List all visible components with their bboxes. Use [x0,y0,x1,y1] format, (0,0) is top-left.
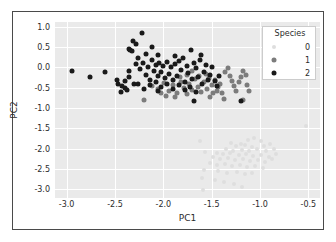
scatter-point [243,72,248,77]
gridline-vertical [212,22,213,198]
scatter-point [174,73,179,78]
figure-canvas: -3.0-2.5-2.0-1.5-1.0-0.5 1.00.50.0-0.5-1… [0,0,336,242]
y-tick-label: -2.0 [34,144,50,153]
scatter-point [143,52,148,57]
legend-entry-label: 2 [305,68,310,77]
scatter-point [199,53,204,58]
scatter-point [127,75,132,80]
scatter-point [202,168,206,172]
gridline-vertical [67,22,68,198]
scatter-point [188,84,193,89]
scatter-point [229,78,234,83]
scatter-point [233,158,237,162]
scatter-point [145,64,150,69]
scatter-point [209,64,214,69]
scatter-point [163,75,168,80]
scatter-point [170,77,175,82]
scatter-point [229,141,233,145]
scatter-point [192,99,197,104]
scatter-point [245,165,249,169]
scatter-point [201,188,205,192]
scatter-point [222,180,226,184]
scatter-point [250,171,254,175]
scatter-point [246,138,250,142]
legend-entry[interactable]: 2 [263,66,317,79]
y-tick-label: -2.5 [34,164,50,173]
scatter-point [182,88,187,93]
gridline-horizontal [55,108,320,109]
scatter-point [198,139,202,143]
scatter-point [156,88,161,93]
scatter-point [234,144,238,148]
scatter-point [228,73,233,78]
scatter-point [136,82,141,87]
scatter-point [247,88,252,93]
scatter-point [201,70,206,75]
gridline-horizontal [55,189,320,190]
scatter-point [226,66,231,71]
scatter-point [213,178,217,182]
scatter-point [203,62,208,67]
scatter-point [240,185,244,189]
scatter-point [178,67,183,72]
y-tick-label: 0.0 [37,63,50,72]
gridline-vertical [163,22,164,198]
scatter-point [200,176,204,180]
y-tick-label: -0.5 [34,83,50,92]
scatter-point [241,157,245,161]
scatter-point [264,149,268,153]
scatter-point [243,172,247,176]
scatter-point [248,159,252,163]
y-tick-label: -3.0 [34,185,50,194]
scatter-point [233,88,238,93]
scatter-point [211,155,215,159]
gridline-vertical [260,22,261,198]
x-axis-label: PC1 [55,213,320,223]
scatter-point [127,69,132,74]
scatter-point [204,86,209,91]
scatter-point [236,80,241,85]
scatter-point [182,80,187,85]
scatter-point [184,63,189,68]
scatter-point [155,74,160,79]
legend-entry[interactable]: 0 [263,40,317,53]
x-tick-label: -2.5 [107,200,123,209]
scatter-point [138,67,143,72]
scatter-point [244,152,248,156]
scatter-point [167,71,172,76]
scatter-point [238,163,242,167]
legend-marker-icon [272,45,276,49]
scatter-point [256,158,260,162]
scatter-point [251,154,255,158]
scatter-point [114,77,119,82]
scatter-point [217,73,222,78]
scatter-point [259,153,263,157]
scatter-point [172,95,177,100]
scatter-point [235,170,239,174]
y-tick-label: 1.0 [37,22,50,31]
scatter-point [198,58,203,63]
legend-entry-label: 0 [305,42,310,51]
scatter-point [189,48,194,53]
scatter-point [200,81,205,86]
y-tick-label: 0.5 [37,43,50,52]
gridline-vertical [115,22,116,198]
x-tick-label: -1.5 [204,200,220,209]
legend-entry[interactable]: 1 [263,53,317,66]
x-tick-label: -2.0 [156,200,172,209]
scatter-point [232,182,236,186]
scatter-point [118,89,123,94]
scatter-point [259,139,263,143]
scatter-point [130,48,135,53]
x-tick-label: -1.0 [252,200,268,209]
scatter-point [186,71,191,76]
scatter-point [252,136,256,140]
scatter-point [176,83,181,88]
scatter-point [253,164,257,168]
scatter-point [237,153,241,157]
scatter-point [224,147,228,151]
scatter-point [153,80,158,85]
scatter-point [238,98,243,103]
scatter-point [250,145,254,149]
scatter-point [210,91,215,96]
